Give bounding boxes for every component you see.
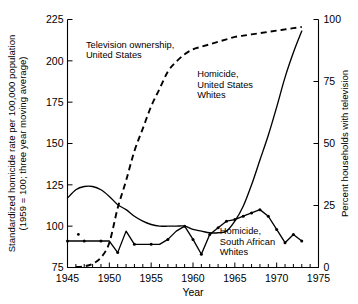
y-left-tick-label-200: 200: [46, 55, 64, 67]
series-2-marker-21: [242, 215, 245, 218]
series-2-marker-4: [99, 240, 102, 243]
tv-ownership-label-line-0: Television ownership,: [86, 40, 174, 50]
tv-ownership-label-line-1: United States: [86, 50, 142, 60]
series-2-marker-6: [116, 251, 119, 254]
y-right-tick-label-0: 0: [324, 261, 330, 273]
y-right-tick-label-100: 100: [324, 13, 342, 25]
x-tick-label-1955: 1955: [139, 272, 163, 284]
us-homicide-label-line-1: United States: [197, 80, 253, 90]
y-left-tick-label-125: 125: [46, 179, 64, 191]
series-2-marker-17: [208, 233, 211, 236]
sa-homicide-label-line-0: Homicide,: [220, 226, 261, 236]
series-2-marker-19: [225, 220, 228, 223]
series-2-marker-20: [233, 218, 236, 221]
y-axis-right-title: Percent households with television: [339, 70, 350, 217]
y-right-tick-label-75: 75: [324, 75, 336, 87]
stray-data-marker: [77, 233, 80, 236]
series-2-marker-23: [258, 208, 261, 211]
series-2-marker-14: [183, 225, 186, 228]
y-left-tick-label-225: 225: [46, 13, 64, 25]
series-2-marker-26: [284, 241, 287, 244]
chart-canvas: 1945195019551960196519701975Year75100125…: [0, 0, 358, 304]
chart-figure: 1945195019551960196519701975Year75100125…: [0, 0, 358, 304]
y-axis-left-subtitle: (1959 = 100; three year moving average): [17, 56, 28, 230]
y-left-tick-label-175: 175: [46, 96, 64, 108]
us-homicide-label-line-2: Whites: [197, 90, 226, 100]
us-homicide-label-line-0: Homicide,: [197, 69, 238, 79]
series-2-marker-2: [83, 240, 86, 243]
series-2-marker-15: [192, 238, 195, 241]
sa-homicide-label-line-1: South African: [220, 237, 275, 247]
series-2-marker-22: [250, 211, 253, 214]
series-2-marker-12: [166, 238, 169, 241]
x-tick-label-1960: 1960: [181, 272, 205, 284]
y-right-tick-label-50: 50: [324, 137, 336, 149]
series-line-0: [76, 27, 302, 267]
y-left-tick-label-150: 150: [46, 137, 64, 149]
sa-homicide-label-line-2: Whites: [220, 247, 249, 257]
y-left-tick-label-100: 100: [46, 220, 64, 232]
series-2-marker-24: [267, 215, 270, 218]
series-line-2: [68, 210, 302, 255]
series-2-marker-10: [150, 243, 153, 246]
series-2-marker-8: [133, 243, 136, 246]
y-right-tick-label-25: 25: [324, 199, 336, 211]
x-tick-label-1950: 1950: [98, 272, 122, 284]
y-axis-left-title: Standardized homicide rate per 100,000 p…: [6, 35, 17, 253]
x-tick-label-1970: 1970: [265, 272, 289, 284]
series-2-marker-16: [200, 253, 203, 256]
x-axis-title: Year: [182, 286, 204, 298]
series-2-marker-27: [292, 233, 295, 236]
series-2-marker-0: [66, 240, 69, 243]
series-2-marker-25: [275, 228, 278, 231]
y-left-tick-label-75: 75: [52, 261, 64, 273]
x-tick-label-1965: 1965: [223, 272, 247, 284]
series-2-marker-28: [300, 240, 303, 243]
series-line-1: [68, 31, 302, 233]
